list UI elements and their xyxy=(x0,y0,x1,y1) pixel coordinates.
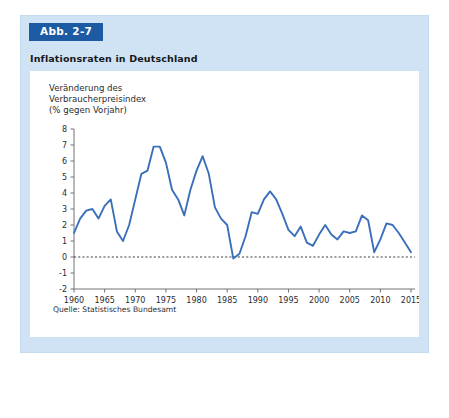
source-note: Quelle: Statistisches Bundesamt xyxy=(53,305,176,314)
svg-text:5: 5 xyxy=(62,173,67,182)
line-chart: -2-1012345678196019651970197519801985199… xyxy=(30,71,419,337)
svg-text:3: 3 xyxy=(62,205,67,214)
svg-text:1970: 1970 xyxy=(125,296,145,305)
svg-text:1990: 1990 xyxy=(248,296,268,305)
svg-text:2: 2 xyxy=(62,221,67,230)
figure-badge: Abb. 2-7 xyxy=(29,23,103,41)
svg-text:1995: 1995 xyxy=(278,296,298,305)
svg-text:7: 7 xyxy=(62,141,67,150)
svg-text:-2: -2 xyxy=(59,285,67,294)
svg-text:2010: 2010 xyxy=(370,296,390,305)
svg-text:4: 4 xyxy=(62,189,67,198)
svg-text:1960: 1960 xyxy=(64,296,84,305)
series-line xyxy=(74,147,411,259)
figure-subtitle: Inflationsraten in Deutschland xyxy=(30,53,198,64)
svg-text:2000: 2000 xyxy=(309,296,329,305)
svg-text:8: 8 xyxy=(62,125,67,134)
svg-text:6: 6 xyxy=(62,157,67,166)
svg-text:1: 1 xyxy=(62,237,67,246)
svg-text:1985: 1985 xyxy=(217,296,237,305)
svg-text:2005: 2005 xyxy=(340,296,360,305)
svg-text:1980: 1980 xyxy=(186,296,206,305)
svg-text:1965: 1965 xyxy=(94,296,114,305)
svg-text:0: 0 xyxy=(62,253,67,262)
svg-text:-1: -1 xyxy=(59,269,67,278)
svg-text:1975: 1975 xyxy=(156,296,176,305)
figure-panel: Abb. 2-7 Inflationsraten in Deutschland … xyxy=(21,16,428,352)
svg-text:2015: 2015 xyxy=(401,296,419,305)
plot-card: Veränderung des Verbraucherpreisindex (%… xyxy=(30,71,419,337)
